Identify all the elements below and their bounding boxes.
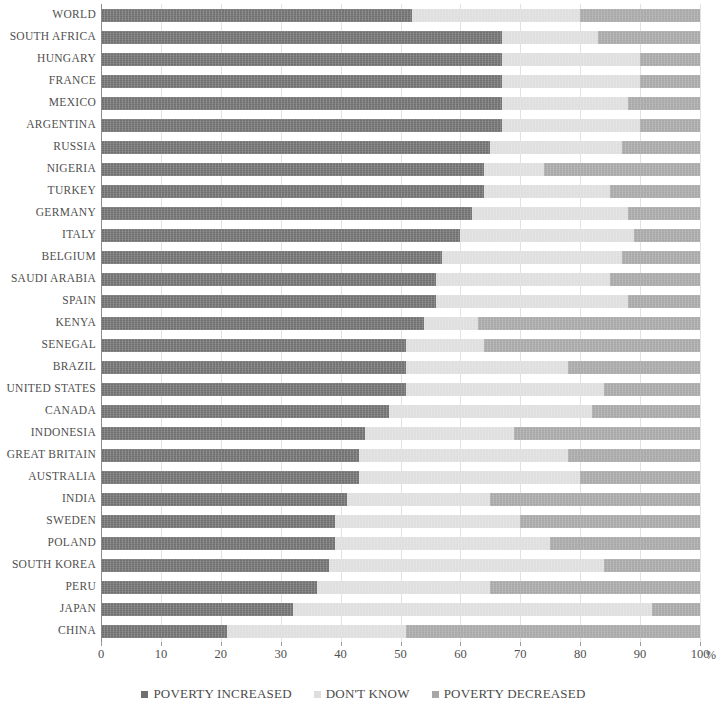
category-label: PERU xyxy=(0,581,96,593)
bar-segment-poverty-increased xyxy=(101,75,502,88)
bar-segment-dont-know xyxy=(436,273,610,286)
bar-segment-poverty-decreased xyxy=(490,581,700,594)
bar-segment-poverty-decreased xyxy=(520,515,700,528)
category-axis-labels: WORLDSOUTH AFRICAHUNGARYFRANCEMEXICOARGE… xyxy=(0,4,96,642)
bar-row xyxy=(101,493,700,506)
x-tick-mark xyxy=(520,642,521,646)
bar-segment-poverty-decreased xyxy=(514,427,700,440)
legend-item-poverty-decreased[interactable]: POVERTY DECREASED xyxy=(432,686,586,702)
legend-item-dont-know[interactable]: DON'T KNOW xyxy=(314,686,410,702)
stacked-bar xyxy=(101,515,700,528)
bar-segment-poverty-increased xyxy=(101,537,335,550)
bar-segment-dont-know xyxy=(490,141,622,154)
category-label: TURKEY xyxy=(0,185,96,197)
bar-row xyxy=(101,163,700,176)
category-label: NIGERIA xyxy=(0,163,96,175)
bar-segment-dont-know xyxy=(359,449,569,462)
bar-row xyxy=(101,9,700,22)
bar-segment-dont-know xyxy=(424,317,478,330)
bar-row xyxy=(101,119,700,132)
legend-label: DON'T KNOW xyxy=(326,686,410,702)
stacked-bar xyxy=(101,141,700,154)
bar-segment-poverty-decreased xyxy=(406,625,700,638)
bar-row xyxy=(101,185,700,198)
bar-segment-poverty-increased xyxy=(101,295,436,308)
x-tick-label: 40 xyxy=(321,648,361,661)
x-tick-label: 80 xyxy=(560,648,600,661)
bar-row xyxy=(101,251,700,264)
category-label: INDONESIA xyxy=(0,427,96,439)
x-tick-mark xyxy=(281,642,282,646)
bar-segment-dont-know xyxy=(484,185,610,198)
bar-segment-dont-know xyxy=(335,537,551,550)
bar-segment-poverty-decreased xyxy=(640,53,700,66)
category-label: HUNGARY xyxy=(0,53,96,65)
bar-row xyxy=(101,53,700,66)
bar-segment-poverty-increased xyxy=(101,493,347,506)
bar-segment-dont-know xyxy=(335,515,521,528)
x-tick-mark xyxy=(640,642,641,646)
x-tick-label: 10 xyxy=(141,648,181,661)
x-tick-label: 0 xyxy=(81,648,121,661)
category-label: ARGENTINA xyxy=(0,119,96,131)
stacked-bar xyxy=(101,361,700,374)
bar-segment-poverty-increased xyxy=(101,383,406,396)
bar-row xyxy=(101,581,700,594)
x-tick-mark xyxy=(221,642,222,646)
x-tick-mark xyxy=(401,642,402,646)
legend-item-poverty-increased[interactable]: POVERTY INCREASED xyxy=(141,686,291,702)
bar-segment-poverty-increased xyxy=(101,31,502,44)
x-tick-label: 70 xyxy=(500,648,540,661)
category-label: UNITED STATES xyxy=(0,383,96,395)
bar-segment-poverty-increased xyxy=(101,97,502,110)
stacked-bar xyxy=(101,229,700,242)
bar-segment-dont-know xyxy=(502,75,640,88)
bar-segment-dont-know xyxy=(317,581,491,594)
category-label: SOUTH AFRICA xyxy=(0,31,96,43)
category-label: POLAND xyxy=(0,537,96,549)
bar-segment-poverty-decreased xyxy=(622,141,700,154)
bar-segment-poverty-increased xyxy=(101,163,484,176)
plot-area xyxy=(101,4,700,642)
category-label: SPAIN xyxy=(0,295,96,307)
stacked-bar xyxy=(101,207,700,220)
bar-segment-dont-know xyxy=(359,471,581,484)
bar-row xyxy=(101,427,700,440)
bar-segment-dont-know xyxy=(442,251,622,264)
x-tick-mark xyxy=(101,642,102,646)
bar-segment-poverty-increased xyxy=(101,273,436,286)
bar-segment-dont-know xyxy=(347,493,491,506)
category-label: JAPAN xyxy=(0,603,96,615)
stacked-bar-chart: WORLDSOUTH AFRICAHUNGARYFRANCEMEXICOARGE… xyxy=(0,0,727,709)
category-label: INDIA xyxy=(0,493,96,505)
bar-segment-poverty-increased xyxy=(101,53,502,66)
bar-segment-dont-know xyxy=(329,559,605,572)
stacked-bar xyxy=(101,75,700,88)
bar-row xyxy=(101,75,700,88)
chart-legend: POVERTY INCREASEDDON'T KNOWPOVERTY DECRE… xyxy=(0,686,727,702)
stacked-bar xyxy=(101,537,700,550)
bar-segment-dont-know xyxy=(406,361,568,374)
bar-segment-dont-know xyxy=(502,31,598,44)
bar-row xyxy=(101,339,700,352)
bar-segment-poverty-increased xyxy=(101,229,460,242)
bar-segment-dont-know xyxy=(365,427,515,440)
bar-segment-poverty-increased xyxy=(101,581,317,594)
bar-segment-poverty-increased xyxy=(101,603,293,616)
x-tick-label: 60 xyxy=(440,648,480,661)
stacked-bar xyxy=(101,427,700,440)
stacked-bar xyxy=(101,273,700,286)
category-label: CANADA xyxy=(0,405,96,417)
bar-segment-poverty-increased xyxy=(101,559,329,572)
bar-segment-poverty-decreased xyxy=(550,537,700,550)
stacked-bar xyxy=(101,31,700,44)
category-label: WORLD xyxy=(0,9,96,21)
bar-segment-dont-know xyxy=(502,53,640,66)
bar-segment-poverty-increased xyxy=(101,207,472,220)
category-label: ITALY xyxy=(0,229,96,241)
bar-segment-poverty-increased xyxy=(101,339,406,352)
x-tick-label: 90 xyxy=(620,648,660,661)
bar-segment-poverty-decreased xyxy=(634,229,700,242)
stacked-bar xyxy=(101,603,700,616)
bar-segment-poverty-decreased xyxy=(544,163,700,176)
